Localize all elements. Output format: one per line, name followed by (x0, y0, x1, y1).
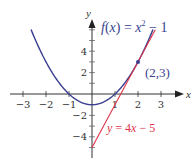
point-label: (2,3) (145, 65, 170, 80)
x-tick-label: −1 (62, 99, 77, 110)
point-marker (136, 60, 140, 64)
x-tick-label: −2 (39, 99, 54, 110)
y-axis-arrow-icon (89, 19, 96, 28)
x-axis-arrow-icon (175, 91, 184, 98)
y-axis-label: y (85, 7, 91, 19)
tangent-label: y = 4x − 5 (106, 121, 155, 135)
y-tick-label: −4 (72, 131, 87, 142)
x-tick-label: 2 (135, 99, 141, 110)
x-tick-label: 3 (158, 99, 164, 110)
function-label: f(x) = x2 − 1 (101, 19, 167, 36)
y-tick-label: −2 (72, 110, 87, 121)
y-tick-label: 4 (81, 46, 87, 57)
y-axis: y −4−224 (72, 7, 95, 158)
x-tick-label: −3 (16, 99, 31, 110)
x-axis-label: x (185, 88, 191, 100)
chart: x −3−2−1123 y −4−224 f(x) = x2 − 1 (2,3)… (0, 0, 196, 162)
x-axis: x −3−2−1123 (10, 88, 191, 110)
y-tick-label: 2 (81, 67, 87, 78)
